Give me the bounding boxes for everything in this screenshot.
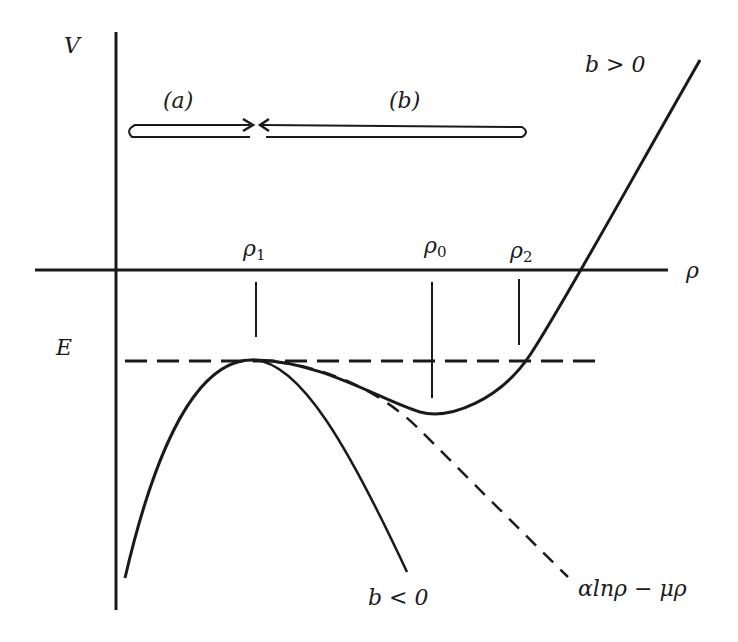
rho2-label: ρ2: [509, 238, 532, 266]
region-b-arrow: [260, 119, 526, 137]
curve-asymptote: [252, 360, 568, 577]
rho-axis-label: ρ: [685, 258, 699, 283]
energy-label: E: [55, 335, 72, 360]
curve-b-negative: [252, 360, 407, 572]
rho1-label: ρ1: [242, 236, 265, 264]
v-axis-label: V: [64, 33, 82, 58]
rho0-label: ρ0: [423, 233, 446, 261]
curve-asymptote-label: αlnρ − μρ: [578, 576, 687, 601]
curve-b-negative-label: b < 0: [368, 585, 429, 610]
region-b-label: (b): [389, 88, 420, 113]
region-a-label: (a): [163, 88, 193, 113]
curve-b-positive-label: b > 0: [585, 52, 646, 77]
region-a-arrow: [129, 119, 253, 137]
potential-diagram: V ρ E (a) (b) ρ1 ρ0 ρ2 b > 0 b < 0 αlnρ …: [0, 0, 738, 642]
